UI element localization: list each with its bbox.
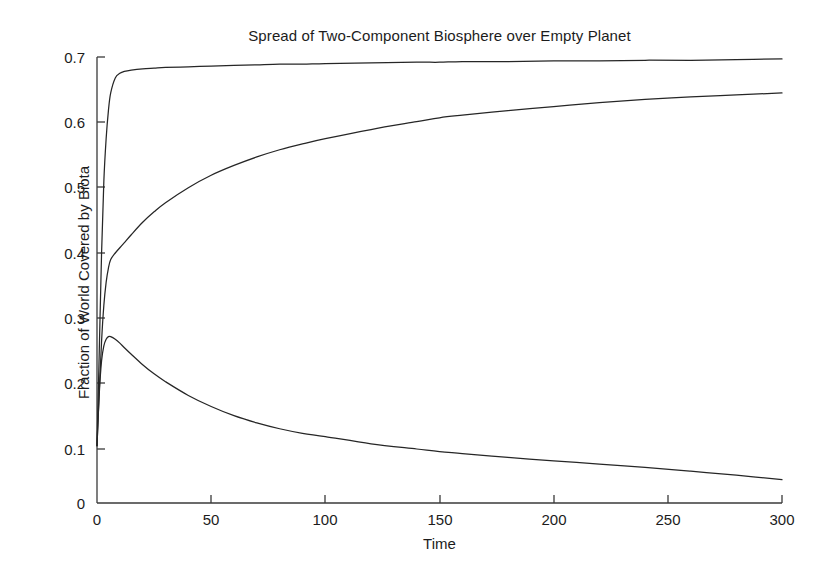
- x-tick-marks: [211, 495, 782, 503]
- x-tick-label-250: 250: [655, 511, 680, 528]
- x-tick-label-0: 0: [93, 511, 101, 528]
- y-tick-label-0.6: 0.6: [40, 114, 85, 131]
- curve-total-biota-coverage: [97, 59, 782, 446]
- x-tick-label-300: 300: [769, 511, 794, 528]
- chart-figure: Spread of Two-Component Biosphere over E…: [0, 0, 834, 573]
- x-tick-label-150: 150: [427, 511, 452, 528]
- y-tick-label-0.3: 0.3: [40, 310, 85, 327]
- y-tick-label-0.7: 0.7: [40, 49, 85, 66]
- data-curves: [97, 59, 782, 480]
- y-tick-label-0: 0: [40, 495, 85, 512]
- axis-lines: [97, 57, 782, 503]
- plot-canvas: [0, 0, 834, 573]
- y-axis-title: Fraction of World Covered by Biota: [75, 103, 92, 463]
- curve-component-one-coverage: [97, 93, 782, 446]
- x-tick-label-100: 100: [312, 511, 337, 528]
- y-tick-label-0.5: 0.5: [40, 179, 85, 196]
- y-tick-label-0.2: 0.2: [40, 375, 85, 392]
- y-tick-label-0.4: 0.4: [40, 245, 85, 262]
- x-axis-title: Time: [97, 535, 782, 552]
- x-tick-label-200: 200: [541, 511, 566, 528]
- chart-title: Spread of Two-Component Biosphere over E…: [97, 27, 782, 44]
- y-tick-label-0.1: 0.1: [40, 441, 85, 458]
- x-tick-label-50: 50: [203, 511, 220, 528]
- curve-component-two-coverage: [97, 336, 782, 479]
